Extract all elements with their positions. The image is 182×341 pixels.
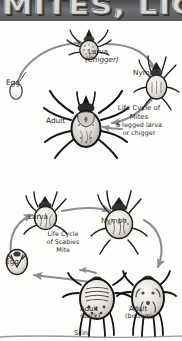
label-lower-egg: Egg [5, 258, 19, 266]
upper-caption-line3: 6 legged larva [101, 121, 177, 129]
label-adult-back-sub: (back) [80, 313, 100, 320]
lower-caption-line1: Life Cycle [32, 230, 94, 238]
upper-caption-line4: or chigger [101, 129, 177, 137]
lower-caption-line2: of Scabies [32, 238, 94, 246]
poster-title: MITES, LICE [2, 0, 182, 18]
label-upper-egg: Egg [6, 79, 20, 87]
poster-page: MITES, LICE [0, 0, 182, 341]
label-lower-larva: Larva [28, 213, 48, 221]
label-upper-nymph: Nymph [133, 69, 159, 77]
label-adult-bottom-sub: (bottom) [125, 313, 153, 319]
label-lower-nymph: Nymph [101, 217, 127, 225]
lower-cycle-caption: Life Cycle of Scabies Mite [32, 230, 94, 254]
upper-caption-line1: Life Cycle of [101, 104, 177, 113]
label-skin: Skin [74, 330, 88, 337]
label-upper-larva-sub: (Chigger) [85, 56, 119, 64]
lower-caption-line3: Mite [32, 246, 94, 254]
title-banner: MITES, LICE [0, 0, 182, 21]
upper-cycle-caption: Life Cycle of Mites 6 legged larva or ch… [101, 104, 177, 137]
upper-caption-line2: Mites [101, 113, 177, 122]
label-upper-adult: Adult [46, 117, 65, 125]
